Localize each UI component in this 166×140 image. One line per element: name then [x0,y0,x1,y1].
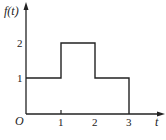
y-tick-label-2: 2 [17,37,23,49]
y-tick-label-1: 1 [17,72,23,84]
step-function-chart: f(t) 2 1 O 1 2 3 t [0,0,166,140]
x-tick-label-2: 2 [92,116,98,128]
origin-label: O [15,114,24,128]
x-tick-label-1: 1 [58,116,64,128]
step-function-line [26,43,129,114]
y-axis-label: f(t) [4,4,19,18]
x-tick-label-3: 3 [126,116,132,128]
y-axis-arrow-icon [24,2,29,10]
x-axis-label: t [155,115,159,129]
